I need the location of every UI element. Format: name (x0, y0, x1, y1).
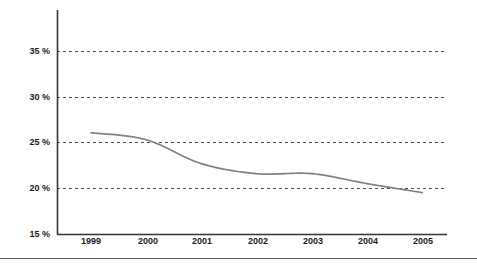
series-line (91, 133, 422, 193)
footer-divider (0, 258, 477, 259)
line-chart: 35 % 30 % 25 % 20 % 15 % 1999 2000 2001 … (0, 0, 477, 266)
chart-canvas (0, 0, 477, 266)
xtick-label-2000: 2000 (123, 236, 173, 246)
axis-lines (57, 10, 447, 235)
xtick-label-2001: 2001 (177, 236, 227, 246)
xtick-label-2004: 2004 (343, 236, 393, 246)
ytick-label-15: 15 % (12, 229, 50, 239)
ytick-label-30: 30 % (12, 92, 50, 102)
ytick-label-25: 25 % (12, 137, 50, 147)
series-group (91, 133, 422, 193)
xtick-label-2003: 2003 (288, 236, 338, 246)
ytick-label-20: 20 % (12, 183, 50, 193)
ytick-label-35: 35 % (12, 46, 50, 56)
xtick-label-2005: 2005 (398, 236, 448, 246)
xtick-label-2002: 2002 (233, 236, 283, 246)
gridlines (57, 52, 447, 189)
xtick-label-1999: 1999 (66, 236, 116, 246)
